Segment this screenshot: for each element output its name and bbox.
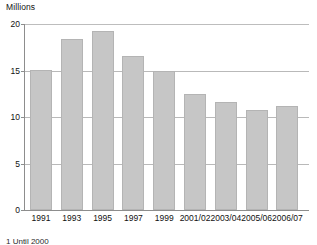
bar xyxy=(215,102,237,210)
footnote-text: 1 Until 2000 xyxy=(6,237,311,245)
bar xyxy=(153,71,175,210)
bar xyxy=(184,94,206,210)
gridline xyxy=(24,24,309,25)
y-axis-tick-mark xyxy=(21,210,25,211)
x-axis-tick-label: 2003/04 xyxy=(210,213,241,223)
bar xyxy=(276,106,298,210)
x-axis-tick-label: 1997 xyxy=(124,213,143,223)
y-axis-unit-label: Millions xyxy=(6,2,35,12)
y-axis-tick-label: 5 xyxy=(2,159,20,169)
y-axis-tick-mark xyxy=(21,71,25,72)
y-axis-tick-mark xyxy=(21,164,25,165)
bar xyxy=(61,39,83,210)
x-axis-tick-label: 1999 xyxy=(155,213,174,223)
y-axis-tick-label: 15 xyxy=(2,66,20,76)
x-axis-tick-label: 1993 xyxy=(62,213,81,223)
x-axis-tick-label: 2001/02 xyxy=(180,213,211,223)
x-axis-tick-label: 1995 xyxy=(93,213,112,223)
bar xyxy=(122,56,144,210)
y-axis-tick-mark xyxy=(21,24,25,25)
y-axis-tick-mark xyxy=(21,117,25,118)
x-axis-labels-group: 199119931995199719992001/022003/042005/0… xyxy=(24,213,317,227)
bar xyxy=(246,110,268,210)
x-axis-tick-label: 2005/06 xyxy=(241,213,272,223)
bar-chart-figure: Millions 05101520 1991199319951997199920… xyxy=(0,0,317,245)
y-axis-tick-label: 10 xyxy=(2,112,20,122)
x-axis-tick-label: 1991 xyxy=(32,213,51,223)
x-axis-tick-label: 2006/07 xyxy=(272,213,303,223)
x-axis-line xyxy=(24,210,309,211)
y-axis-tick-label: 0 xyxy=(2,205,20,215)
bar xyxy=(92,31,114,210)
y-axis-tick-label: 20 xyxy=(2,19,20,29)
bar xyxy=(30,70,52,210)
plot-area xyxy=(24,24,313,210)
